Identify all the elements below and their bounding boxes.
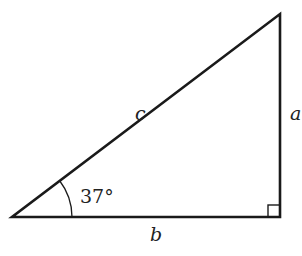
right-triangle-diagram: 37° c a b <box>0 0 302 256</box>
base-label: b <box>150 223 162 245</box>
side-a-label: a <box>290 102 301 124</box>
angle-label: 37° <box>80 185 114 207</box>
hypotenuse-label: c <box>135 102 146 124</box>
triangle <box>12 14 280 217</box>
right-angle-marker <box>268 205 280 217</box>
angle-arc <box>60 181 73 218</box>
